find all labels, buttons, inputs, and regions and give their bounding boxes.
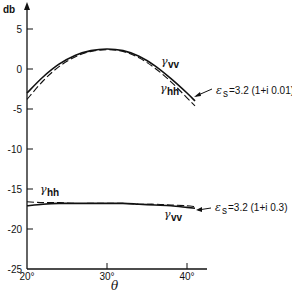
svg-text:=3.2 (1+i 0.3): =3.2 (1+i 0.3) <box>228 202 287 213</box>
svg-text:vv: vv <box>171 212 183 223</box>
annotation-upper-vv: γ vv <box>161 55 180 70</box>
svg-text:γ: γ <box>161 55 168 68</box>
svg-text:γ: γ <box>160 82 167 95</box>
y-axis-arrow-icon <box>24 2 30 10</box>
y-tick-label: -10 <box>8 144 23 155</box>
svg-text:hh: hh <box>167 86 179 97</box>
svg-text:vv: vv <box>168 59 180 70</box>
data-series <box>27 49 195 208</box>
y-axis-label: db <box>3 4 15 15</box>
svg-text:s: s <box>223 88 228 99</box>
svg-text:=3.2 (1+i 0.01): =3.2 (1+i 0.01) <box>229 85 292 96</box>
svg-text:ε: ε <box>215 201 221 214</box>
annotation-upper-permittivity: ε s =3.2 (1+i 0.01) <box>194 84 292 99</box>
x-tick-label: 20° <box>19 271 34 282</box>
y-tick-label: -20 <box>8 224 23 235</box>
annotation-lower-vv: γ vv <box>164 208 183 223</box>
y-tick-label: 0 <box>16 64 22 75</box>
x-axis-label: θ <box>111 279 119 293</box>
x-tick-label: 40° <box>179 271 194 282</box>
svg-text:ε: ε <box>216 84 222 97</box>
y-tick-label: -5 <box>13 104 22 115</box>
chart: 50-5-10-15-20-2520°30°40° db θ γ vv γ hh… <box>0 0 292 297</box>
annotation-lower-permittivity: ε s =3.2 (1+i 0.3) <box>196 201 287 216</box>
y-tick-label: -15 <box>8 184 23 195</box>
axes <box>24 2 207 269</box>
svg-text:s: s <box>222 205 227 216</box>
svg-text:γ: γ <box>40 183 47 196</box>
svg-text:hh: hh <box>47 187 59 198</box>
annotation-lower-hh: γ hh <box>40 183 59 198</box>
y-tick-label: 5 <box>16 24 22 35</box>
svg-text:γ: γ <box>164 208 171 221</box>
